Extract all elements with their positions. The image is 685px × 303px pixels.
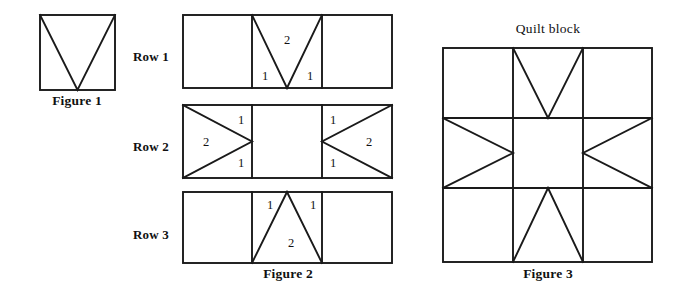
row1-number: 1 — [262, 70, 268, 83]
row2-number: 1 — [238, 114, 244, 127]
quilt-block-grid-lines — [443, 48, 652, 262]
figure1-caption: Figure 1 — [52, 94, 102, 108]
row1-label: Row 1 — [133, 50, 169, 63]
quilt-block-bottom-point — [513, 188, 583, 262]
row2-number: 1 — [238, 157, 244, 170]
figure3-caption: Figure 3 — [523, 267, 573, 281]
quilt-block-left-point — [443, 118, 513, 188]
row3-label: Row 3 — [133, 228, 169, 241]
quilt-block-outer-square — [443, 48, 652, 262]
row3-number: 1 — [267, 199, 273, 212]
row3-rectangle — [183, 192, 392, 263]
quilt-block-title: Quilt block — [516, 22, 580, 36]
row1-rectangle — [183, 15, 392, 88]
figure-canvas: Figure 1 Row 1 Row 2 Row 3 2 1 1 1 2 1 1… — [0, 0, 685, 303]
quilt-block-top-point — [513, 48, 583, 118]
line-art-svg — [0, 0, 685, 303]
quilt-block-right-point — [583, 118, 652, 188]
row2-number: 2 — [366, 136, 372, 149]
row1-number: 1 — [307, 70, 313, 83]
row2-rectangle — [183, 105, 392, 178]
figure1-square — [40, 15, 115, 90]
row2-number: 2 — [203, 136, 209, 149]
row2-label: Row 2 — [133, 140, 169, 153]
row1-number: 2 — [284, 34, 290, 47]
figure2-caption: Figure 2 — [263, 267, 313, 281]
figure1-inverted-triangle — [40, 15, 115, 90]
row2-cell-dividers — [252, 105, 322, 178]
row2-number: 1 — [330, 157, 336, 170]
row3-number: 2 — [288, 237, 294, 250]
row2-number: 1 — [330, 114, 336, 127]
row3-number: 1 — [310, 199, 316, 212]
